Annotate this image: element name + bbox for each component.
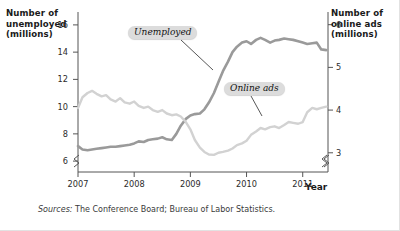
sources-note: Sources: The Conference Board; Bureau of… bbox=[38, 205, 275, 214]
y-tick-label-left: 12 bbox=[54, 74, 68, 84]
leader-line-online-ads bbox=[251, 96, 262, 116]
figure-frame: Number of unemployed (millions) Number o… bbox=[0, 0, 400, 231]
y-axis-left-title-line-1: Number of bbox=[6, 8, 80, 19]
x-tick-label: 2009 bbox=[173, 179, 207, 189]
leader-line-unemployed bbox=[181, 40, 213, 70]
y-tick-label-right: 6 bbox=[336, 20, 350, 30]
y-tick-label-right: 5 bbox=[336, 62, 350, 72]
y-axis-left-title: Number of unemployed (millions) bbox=[6, 8, 80, 40]
sources-label: Sources: bbox=[38, 205, 73, 214]
y-axis-left-title-line-2: unemployed bbox=[6, 19, 80, 30]
x-tick-label: 2007 bbox=[61, 179, 95, 189]
y-tick-label-left: 16 bbox=[54, 20, 68, 30]
x-tick-label: 2008 bbox=[117, 179, 151, 189]
series-label-unemployed: Unemployed bbox=[128, 26, 197, 39]
series-line-unemployed bbox=[78, 38, 326, 150]
y-tick-label-left: 10 bbox=[54, 102, 68, 112]
series-label-online-ads: Online ads bbox=[224, 82, 285, 95]
y-tick-label-left: 6 bbox=[54, 156, 68, 166]
y-tick-label-right: 4 bbox=[336, 105, 350, 115]
chart-canvas: Number of unemployed (millions) Number o… bbox=[0, 0, 400, 196]
x-tick-label: 2011 bbox=[286, 179, 320, 189]
y-tick-label-right: 3 bbox=[336, 148, 350, 158]
y-axis-right-title-line-3: (millions) bbox=[331, 29, 397, 40]
y-axis-left-title-line-3: (millions) bbox=[6, 29, 80, 40]
y-tick-label-left: 14 bbox=[54, 47, 68, 57]
series-line-online-ads bbox=[78, 91, 326, 155]
x-tick-label: 2010 bbox=[230, 179, 264, 189]
sources-value: The Conference Board; Bureau of Labor St… bbox=[73, 205, 276, 214]
y-axis-right-title-line-1: Number of bbox=[331, 8, 397, 19]
y-tick-label-left: 8 bbox=[54, 129, 68, 139]
